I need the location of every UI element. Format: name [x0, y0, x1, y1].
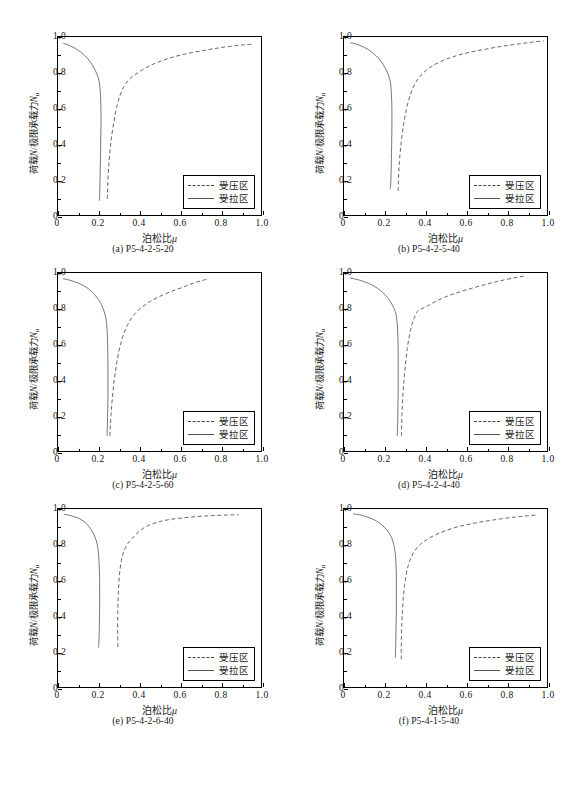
y-tick — [344, 599, 347, 600]
y-tick — [344, 55, 347, 56]
x-tick-label: 1.0 — [255, 218, 268, 228]
y-axis-title: 荷载N/极限承载力Nu — [312, 48, 327, 218]
x-tick — [447, 685, 448, 688]
x-tick — [385, 211, 386, 215]
x-tick — [508, 447, 509, 451]
subplot-f: 受压区受拉区00.20.40.60.81.000.20.40.60.81.0泊松… — [286, 486, 572, 722]
x-tick — [549, 683, 550, 687]
legend-item-compression: 受压区 — [188, 415, 249, 428]
legend-item-tension: 受拉区 — [474, 428, 535, 441]
x-tick — [426, 683, 427, 687]
curve-compression-f — [401, 515, 536, 659]
x-tick-label: 0.2 — [377, 454, 390, 464]
legend-label-tension: 受拉区 — [505, 429, 535, 441]
legend-e: 受压区受拉区 — [183, 647, 255, 681]
x-tick — [385, 447, 386, 451]
legend-swatch-tension-icon — [188, 198, 214, 199]
x-tick — [344, 211, 345, 215]
x-tick-label: 1.0 — [255, 690, 268, 700]
legend-label-tension: 受拉区 — [219, 665, 249, 677]
x-tick — [79, 213, 80, 216]
curve-tension-b — [350, 43, 392, 189]
x-tick-label: 0.2 — [91, 690, 104, 700]
legend-swatch-tension-icon — [474, 670, 500, 671]
legend-item-tension: 受拉区 — [188, 664, 249, 677]
x-tick — [79, 685, 80, 688]
x-tick-label: 0.6 — [459, 690, 472, 700]
y-tick — [58, 671, 61, 672]
legend-swatch-tension-icon — [474, 198, 500, 199]
legend-label-tension: 受拉区 — [219, 429, 249, 441]
x-tick — [243, 685, 244, 688]
x-tick — [406, 449, 407, 452]
y-tick — [344, 563, 347, 564]
y-tick — [58, 291, 61, 292]
legend-label-compression: 受压区 — [505, 180, 535, 192]
legend-swatch-tension-icon — [188, 434, 214, 435]
curve-compression-b — [398, 41, 544, 191]
x-tick — [222, 447, 223, 451]
x-tick — [508, 683, 509, 687]
legend-label-tension: 受拉区 — [219, 193, 249, 205]
x-tick — [120, 449, 121, 452]
x-tick-label: 0.8 — [500, 454, 513, 464]
x-tick — [202, 449, 203, 452]
y-tick — [58, 599, 61, 600]
y-tick — [58, 635, 61, 636]
legend-c: 受压区受拉区 — [183, 411, 255, 445]
y-tick — [344, 399, 347, 400]
x-tick — [488, 449, 489, 452]
x-tick-label: 0.6 — [173, 218, 186, 228]
x-tick-label: 0.8 — [214, 690, 227, 700]
x-tick-label: 0.2 — [91, 218, 104, 228]
legend-swatch-compression-icon — [474, 421, 500, 422]
y-tick — [344, 127, 347, 128]
x-tick — [488, 685, 489, 688]
x-tick-label: 0.4 — [418, 218, 431, 228]
legend-label-compression: 受压区 — [219, 180, 249, 192]
legend-a: 受压区受拉区 — [183, 175, 255, 209]
x-tick — [263, 683, 264, 687]
x-tick-label: 0.8 — [500, 690, 513, 700]
plot-area-e: 受压区受拉区 — [57, 508, 262, 688]
x-tick — [508, 211, 509, 215]
curve-tension-f — [353, 514, 396, 658]
x-tick-label: 0.2 — [91, 454, 104, 464]
x-tick — [99, 683, 100, 687]
curve-tension-a — [63, 43, 101, 201]
x-tick — [467, 447, 468, 451]
subplot-b: 受压区受拉区00.20.40.60.81.000.20.40.60.81.0泊松… — [286, 14, 572, 250]
x-tick — [344, 447, 345, 451]
legend-swatch-compression-icon — [474, 185, 500, 186]
x-tick — [161, 449, 162, 452]
x-tick — [549, 211, 550, 215]
x-tick-label: 1.0 — [541, 454, 554, 464]
y-axis-title: 荷载N/极限承载力Nu — [26, 284, 41, 454]
plot-area-c: 受压区受拉区 — [57, 272, 262, 452]
subplot-c: 受压区受拉区00.20.40.60.81.000.20.40.60.81.0泊松… — [0, 250, 286, 486]
x-tick — [344, 683, 345, 687]
x-tick — [120, 213, 121, 216]
legend-swatch-tension-icon — [474, 434, 500, 435]
x-tick — [467, 211, 468, 215]
curve-tension-c — [63, 279, 108, 436]
y-axis-title: 荷载N/极限承载力Nu — [312, 520, 327, 690]
legend-d: 受压区受拉区 — [469, 411, 541, 445]
x-tick — [263, 211, 264, 215]
x-tick — [99, 447, 100, 451]
y-tick — [344, 327, 347, 328]
legend-label-tension: 受拉区 — [505, 665, 535, 677]
x-tick — [58, 211, 59, 215]
y-tick — [58, 435, 61, 436]
x-tick-label: 0.6 — [459, 218, 472, 228]
x-tick — [79, 449, 80, 452]
x-tick — [58, 683, 59, 687]
x-tick-label: 0.4 — [418, 454, 431, 464]
legend-item-compression: 受压区 — [188, 179, 249, 192]
plot-area-b: 受压区受拉区 — [343, 36, 548, 216]
legend-item-tension: 受拉区 — [474, 192, 535, 205]
legend-label-compression: 受压区 — [219, 416, 249, 428]
x-tick-label: 0.4 — [418, 690, 431, 700]
legend-item-tension: 受拉区 — [188, 428, 249, 441]
x-tick-label: 1.0 — [255, 454, 268, 464]
